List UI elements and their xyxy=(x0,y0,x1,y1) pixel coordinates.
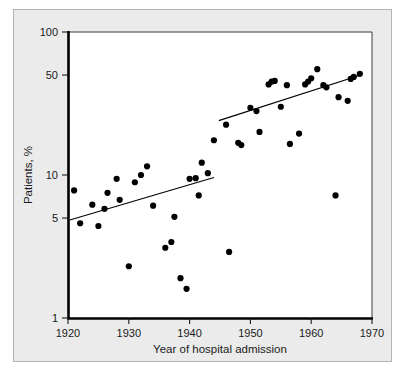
y-tick-label-50: 50 xyxy=(46,69,58,81)
data-point xyxy=(272,78,278,84)
y-axis-ticks xyxy=(62,32,68,318)
data-point xyxy=(287,141,293,147)
data-point xyxy=(199,160,205,166)
data-point xyxy=(193,175,199,181)
data-point xyxy=(187,176,193,182)
x-tick-label-1940: 1940 xyxy=(177,327,201,339)
y-axis-tick-labels: 151050100 xyxy=(40,26,58,324)
data-point xyxy=(168,239,174,245)
data-point xyxy=(183,286,189,292)
y-axis-title: Patients, % xyxy=(22,146,34,204)
data-point xyxy=(117,197,123,203)
data-point xyxy=(95,223,101,229)
data-point xyxy=(256,129,262,135)
data-point xyxy=(223,122,229,128)
data-point xyxy=(332,192,338,198)
data-point xyxy=(162,245,168,251)
x-axis-tick-labels: 192019301940195019601970 xyxy=(56,327,384,339)
data-point xyxy=(171,214,177,220)
data-point xyxy=(308,75,314,81)
data-point xyxy=(71,187,77,193)
x-tick-label-1950: 1950 xyxy=(238,327,262,339)
data-point xyxy=(101,206,107,212)
data-point xyxy=(278,104,284,110)
data-point xyxy=(144,163,150,169)
data-point xyxy=(126,263,132,269)
y-tick-label-10: 10 xyxy=(46,169,58,181)
data-point xyxy=(253,108,259,114)
y-tick-label-1: 1 xyxy=(52,312,58,324)
scatter-plot: 151050100 192019301940195019601970 Year … xyxy=(0,0,405,380)
data-point xyxy=(314,66,320,72)
data-point xyxy=(138,172,144,178)
data-point xyxy=(238,142,244,148)
data-point xyxy=(211,137,217,143)
data-point xyxy=(132,179,138,185)
data-point xyxy=(150,203,156,209)
x-tick-label-1960: 1960 xyxy=(299,327,323,339)
data-point xyxy=(196,192,202,198)
data-point xyxy=(357,71,363,77)
x-tick-label-1920: 1920 xyxy=(56,327,80,339)
data-point xyxy=(296,130,302,136)
data-point xyxy=(205,170,211,176)
y-tick-label-5: 5 xyxy=(52,212,58,224)
x-axis-title: Year of hospital admission xyxy=(153,343,287,355)
data-point xyxy=(335,94,341,100)
data-point xyxy=(351,74,357,80)
y-tick-label-100: 100 xyxy=(40,26,58,38)
x-tick-label-1970: 1970 xyxy=(360,327,384,339)
x-tick-label-1930: 1930 xyxy=(117,327,141,339)
plot-area-background xyxy=(68,32,372,318)
data-point xyxy=(247,105,253,111)
data-point xyxy=(345,98,351,104)
figure-container: 151050100 192019301940195019601970 Year … xyxy=(0,0,405,380)
data-point xyxy=(284,82,290,88)
data-point xyxy=(77,220,83,226)
data-point xyxy=(104,190,110,196)
data-point xyxy=(114,176,120,182)
data-point xyxy=(323,84,329,90)
data-point xyxy=(226,249,232,255)
data-point xyxy=(89,202,95,208)
data-point xyxy=(177,275,183,281)
